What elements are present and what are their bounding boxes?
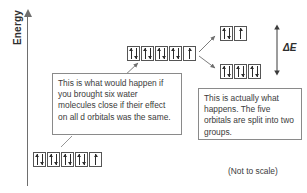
spin-up-arrow-icon <box>129 48 133 59</box>
orbital-row-ground <box>33 152 102 167</box>
spin-down-arrow-icon <box>40 154 44 165</box>
spin-up-arrow-icon <box>188 48 192 59</box>
spin-up-arrow-icon <box>143 48 147 59</box>
spin-down-arrow-icon <box>134 48 138 59</box>
spin-up-arrow-icon <box>236 66 240 77</box>
orbital-box <box>248 64 261 79</box>
orbital-box <box>183 46 196 61</box>
orbital-box <box>127 46 140 61</box>
spin-down-arrow-icon <box>227 66 231 77</box>
orbital-box <box>75 152 88 167</box>
orbital-box <box>47 152 60 167</box>
split-arrow-upper <box>199 36 215 52</box>
orbital-box <box>61 152 74 167</box>
orbital-box <box>220 64 233 79</box>
spin-up-arrow-icon <box>35 154 39 165</box>
orbital-box <box>234 64 247 79</box>
spin-up-arrow-icon <box>250 66 254 77</box>
spin-down-arrow-icon <box>162 48 166 59</box>
orbital-box <box>220 26 233 41</box>
callout-spherical-field: This is what would happen if you brought… <box>52 73 182 135</box>
orbital-box <box>89 152 102 167</box>
spin-down-arrow-icon <box>241 66 245 77</box>
spin-up-arrow-icon <box>171 48 175 59</box>
delta-e-arrowhead-top <box>274 25 280 30</box>
delta-e-arrowhead-bottom <box>274 71 280 76</box>
orbital-box <box>141 46 154 61</box>
spin-down-arrow-icon <box>227 28 231 39</box>
callout-split-explanation: This is actually what happens. The five … <box>198 88 302 140</box>
orbital-box <box>234 26 247 41</box>
orbital-row-spherical <box>127 46 196 61</box>
spin-up-arrow-icon <box>49 154 53 165</box>
spin-up-arrow-icon <box>63 154 67 165</box>
delta-e-label: ΔE <box>283 42 296 53</box>
spin-up-arrow-icon <box>77 154 81 165</box>
spin-up-arrow-icon <box>94 154 98 165</box>
diagram-canvas: Energy ΔE This is what would happen if y… <box>0 0 307 193</box>
not-to-scale-note: (Not to scale) <box>228 166 278 176</box>
leader-left-callout-to-ground <box>61 136 72 147</box>
orbital-box <box>169 46 182 61</box>
spin-up-arrow-icon <box>222 66 226 77</box>
orbital-row-lower-split <box>220 64 261 79</box>
spin-up-arrow-icon <box>222 28 226 39</box>
spin-up-arrow-icon <box>157 48 161 59</box>
spin-down-arrow-icon <box>255 66 259 77</box>
spin-down-arrow-icon <box>54 154 58 165</box>
split-arrow-lower <box>199 56 215 68</box>
orbital-box <box>33 152 46 167</box>
spin-down-arrow-icon <box>68 154 72 165</box>
spin-down-arrow-icon <box>148 48 152 59</box>
spin-down-arrow-icon <box>176 48 180 59</box>
spin-down-arrow-icon <box>82 154 86 165</box>
spin-up-arrow-icon <box>239 28 243 39</box>
orbital-box <box>155 46 168 61</box>
orbital-row-upper-split <box>220 26 247 41</box>
